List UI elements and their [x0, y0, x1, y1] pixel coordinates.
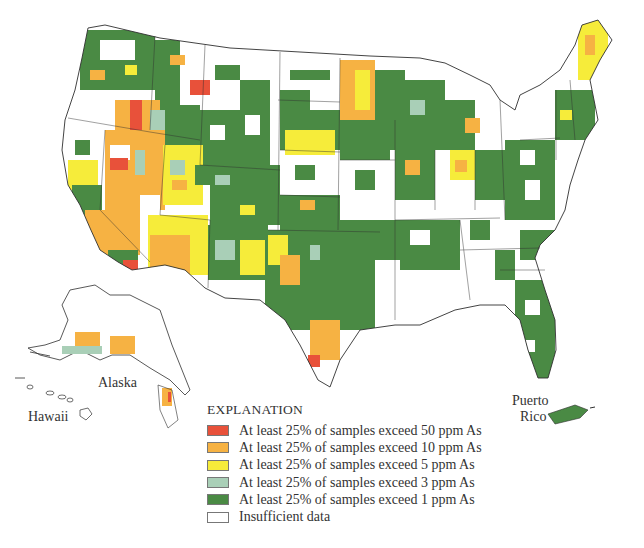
legend: EXPLANATION At least 25% of samples exce…: [207, 402, 482, 526]
legend-item-3ppm: At least 25% of samples exceed 3 ppm As: [207, 474, 482, 491]
legend-label: At least 25% of samples exceed 50 ppm As: [239, 423, 482, 439]
puerto-rico: [548, 405, 595, 424]
legend-item-50ppm: At least 25% of samples exceed 50 ppm As: [207, 422, 482, 439]
legend-item-10ppm: At least 25% of samples exceed 10 ppm As: [207, 439, 482, 456]
legend-item-5ppm: At least 25% of samples exceed 5 ppm As: [207, 457, 482, 474]
legend-label: At least 25% of samples exceed 3 ppm As: [239, 475, 475, 491]
swatch-red: [207, 425, 229, 436]
swatch-white: [207, 512, 229, 523]
legend-title: EXPLANATION: [207, 402, 482, 418]
alaska: [15, 285, 190, 428]
legend-label: At least 25% of samples exceed 1 ppm As: [239, 492, 475, 508]
legend-label: Insufficient data: [239, 509, 330, 525]
puerto-rico-label-line2: Rico: [520, 409, 546, 425]
swatch-yellow: [207, 460, 229, 471]
legend-label: At least 25% of samples exceed 10 ppm As: [239, 440, 482, 456]
legend-label: At least 25% of samples exceed 5 ppm As: [239, 457, 475, 473]
puerto-rico-label-line1: Puerto: [512, 393, 549, 409]
swatch-dark-green: [207, 494, 229, 505]
swatch-orange: [207, 442, 229, 453]
swatch-light-green: [207, 477, 229, 488]
hawaii-label: Hawaii: [28, 409, 68, 425]
alaska-label: Alaska: [98, 375, 137, 391]
legend-item-1ppm: At least 25% of samples exceed 1 ppm As: [207, 491, 482, 508]
legend-item-insufficient: Insufficient data: [207, 508, 482, 525]
